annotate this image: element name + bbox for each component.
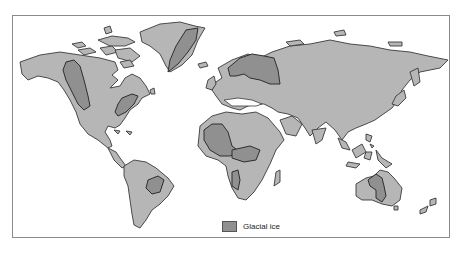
- legend: Glacial ice: [222, 221, 280, 232]
- legend-label: Glacial ice: [243, 222, 280, 231]
- south-america: [124, 160, 174, 228]
- world-map: [0, 0, 460, 253]
- legend-swatch-glacial-ice: [222, 221, 237, 232]
- ice-southern-africa: [232, 170, 240, 190]
